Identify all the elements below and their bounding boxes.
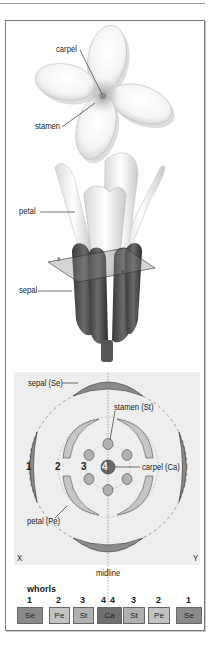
whorl-box-petal: Pe [49, 607, 70, 624]
ring-number-2: 2 [55, 461, 61, 472]
whorl-box-carpel: Ca [97, 607, 122, 624]
whorl-box-sepal: Se [176, 607, 202, 624]
petal-pe-label: petal (Pe) [27, 516, 60, 526]
whorls-title: whorls [27, 584, 56, 594]
whorl-box-petal: Pe [148, 607, 170, 624]
ring-number-1: 1 [26, 461, 32, 472]
whorl-box-sepal: Se [17, 607, 43, 624]
whorl-number: 4 [101, 595, 106, 605]
whorl-number: 3 [80, 595, 85, 605]
midline-label: midline [96, 568, 120, 578]
axis-y-label: Y [193, 553, 198, 563]
ring-number-4: 4 [102, 461, 108, 472]
whorl-number: 3 [131, 595, 136, 605]
whorl-number: 2 [56, 595, 61, 605]
sepal-se-label: sepal (Se) [28, 378, 63, 388]
axis-x-label: X [17, 553, 22, 563]
ring-number-3: 3 [81, 461, 87, 472]
whorl-box-stamen: St [123, 607, 145, 624]
whorl-box-stamen: St [73, 607, 94, 624]
whorl-number: 1 [186, 595, 191, 605]
floral-diagram [0, 0, 214, 659]
whorl-number: 2 [156, 595, 161, 605]
stamen-st-label: stamen (St) [114, 402, 154, 412]
whorl-number: 1 [27, 595, 32, 605]
whorl-number: 4 [110, 595, 115, 605]
floral-diagram-graphics [29, 373, 187, 620]
carpel-ca-label: carpel (Ca) [142, 462, 180, 472]
